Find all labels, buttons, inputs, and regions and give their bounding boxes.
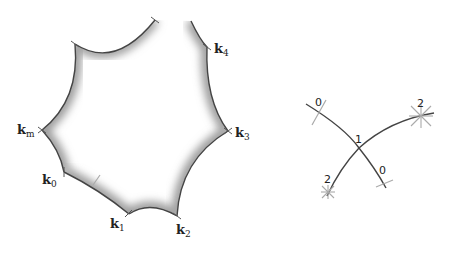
label-k1: k1 [110,216,125,233]
edge-bottom-left [64,172,129,214]
label-km: km [17,122,35,139]
label-k4: k4 [214,41,229,58]
edge-shading [42,20,228,216]
label-center: 1 [355,133,362,146]
label-k2: k2 [176,222,191,239]
label-k0: k0 [42,172,57,189]
label-bottom-left: 2 [324,173,331,186]
polygon-diagram: k4 k3 k2 k1 k0 km [17,17,250,239]
label-top-right: 2 [417,97,424,110]
figure-canvas: k4 k3 k2 k1 k0 km 0 1 2 2 0 [0,0,453,253]
marker-star-bottom-left [321,185,335,199]
label-bottom-right: 0 [379,164,386,177]
label-top-left: 0 [315,96,322,109]
label-k3: k3 [235,125,250,142]
crossing-arcs-diagram: 0 1 2 2 0 [306,96,434,199]
arc-a [306,104,386,188]
arc-b [327,113,434,196]
